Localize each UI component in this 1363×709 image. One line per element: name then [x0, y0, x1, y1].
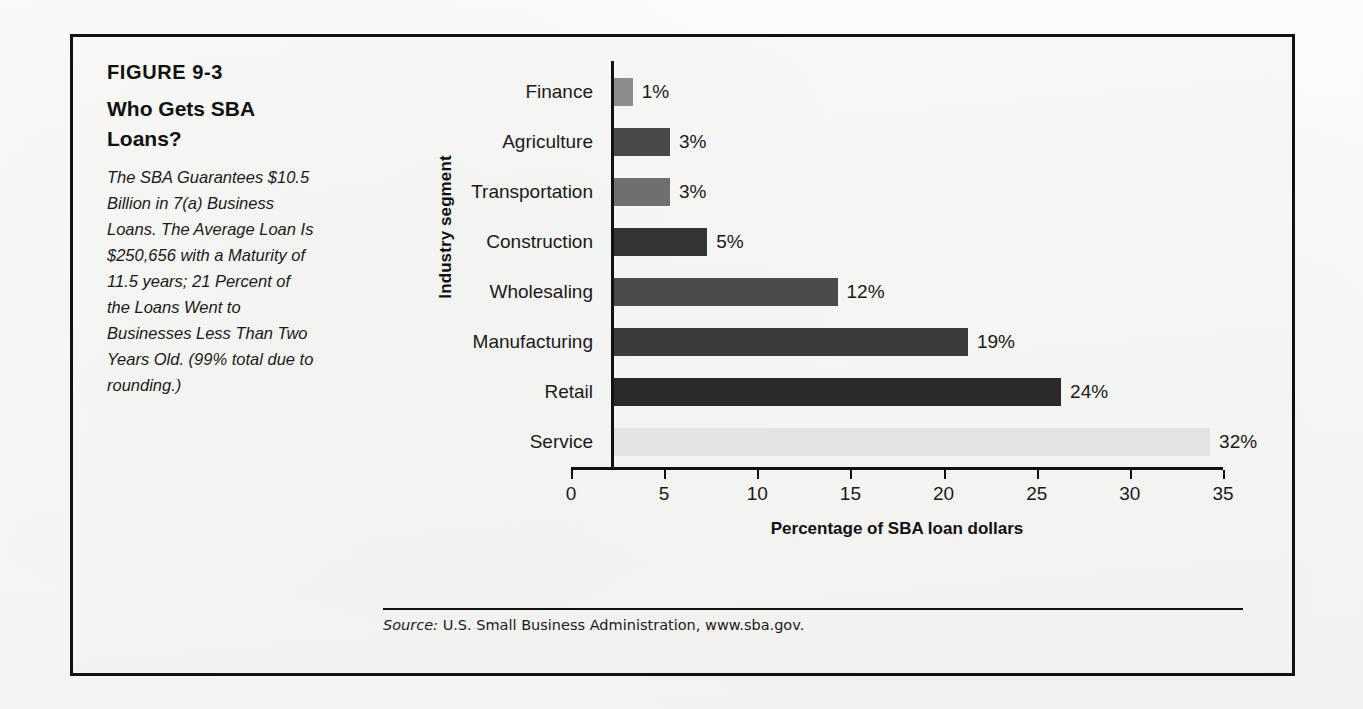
bar-row: 24%: [614, 378, 1061, 406]
bar-row: 32%: [614, 428, 1210, 456]
figure-page: FIGURE 9-3 Who Gets SBA Loans? The SBA G…: [0, 0, 1363, 709]
bar: 3%: [614, 178, 670, 206]
figure-frame: FIGURE 9-3 Who Gets SBA Loans? The SBA G…: [70, 34, 1295, 676]
x-axis-tick: [1130, 470, 1132, 479]
bar-row: 19%: [614, 328, 968, 356]
y-axis-line: [611, 61, 614, 467]
bar: 12%: [614, 278, 838, 306]
category-label: Transportation: [363, 181, 593, 203]
category-label-column: FinanceAgricultureTransportationConstruc…: [368, 67, 603, 467]
bar-value-label: 24%: [1070, 381, 1108, 403]
bar-value-label: 5%: [716, 231, 743, 253]
x-axis-tick: [850, 470, 852, 479]
bar-row: 1%: [614, 78, 633, 106]
plot-area: FinanceAgricultureTransportationConstruc…: [368, 67, 1263, 467]
x-axis-tick: [757, 470, 759, 479]
bar: 3%: [614, 128, 670, 156]
bar-row: 5%: [614, 228, 707, 256]
bars-area: 1%3%3%5%12%19%24%32%: [611, 67, 1263, 467]
bar-row: 3%: [614, 128, 670, 156]
bar-value-label: 32%: [1219, 431, 1257, 453]
x-axis-tick-label: 20: [933, 483, 954, 505]
x-axis-tick-label: 25: [1026, 483, 1047, 505]
bar-value-label: 12%: [847, 281, 885, 303]
x-axis-tick: [944, 470, 946, 479]
category-label: Manufacturing: [363, 331, 593, 353]
x-axis-line: [571, 467, 1223, 470]
x-axis-tick-label: 5: [659, 483, 670, 505]
source-label: Source:: [383, 617, 438, 633]
category-label: Service: [363, 431, 593, 453]
bar-value-label: 3%: [679, 131, 706, 153]
x-axis-title: Percentage of SBA loan dollars: [571, 519, 1223, 539]
category-label: Construction: [363, 231, 593, 253]
bar: 19%: [614, 328, 968, 356]
x-axis-tick-label: 35: [1212, 483, 1233, 505]
bar-row: 12%: [614, 278, 838, 306]
bar-chart: Industry segment FinanceAgricultureTrans…: [328, 67, 1263, 587]
x-axis-tick: [664, 470, 666, 479]
source-line: Source: U.S. Small Business Administrati…: [383, 617, 804, 633]
source-divider: [383, 608, 1243, 610]
x-axis-tick-label: 15: [840, 483, 861, 505]
source-text: U.S. Small Business Administration, www.…: [443, 617, 805, 633]
bar: 32%: [614, 428, 1210, 456]
x-axis-tick-label: 0: [566, 483, 577, 505]
bar: 5%: [614, 228, 707, 256]
x-axis-tick-label: 30: [1119, 483, 1140, 505]
bar-row: 3%: [614, 178, 670, 206]
bar-value-label: 3%: [679, 181, 706, 203]
category-label: Agriculture: [363, 131, 593, 153]
x-axis: Percentage of SBA loan dollars 051015202…: [571, 467, 1223, 553]
figure-number: FIGURE 9-3: [107, 61, 317, 84]
category-label: Wholesaling: [363, 281, 593, 303]
bar-value-label: 19%: [977, 331, 1015, 353]
x-axis-tick-label: 10: [747, 483, 768, 505]
bar: 1%: [614, 78, 633, 106]
figure-caption: The SBA Guarantees $10.5 Billion in 7(a)…: [107, 164, 317, 399]
category-label: Retail: [363, 381, 593, 403]
caption-column: FIGURE 9-3 Who Gets SBA Loans? The SBA G…: [107, 61, 317, 398]
x-axis-tick: [1223, 470, 1225, 479]
bar-value-label: 1%: [642, 81, 669, 103]
x-axis-tick: [1037, 470, 1039, 479]
bar: 24%: [614, 378, 1061, 406]
figure-inner-area: FIGURE 9-3 Who Gets SBA Loans? The SBA G…: [73, 37, 1292, 673]
category-label: Finance: [363, 81, 593, 103]
figure-title: Who Gets SBA Loans?: [107, 94, 317, 154]
x-axis-tick: [571, 470, 573, 479]
